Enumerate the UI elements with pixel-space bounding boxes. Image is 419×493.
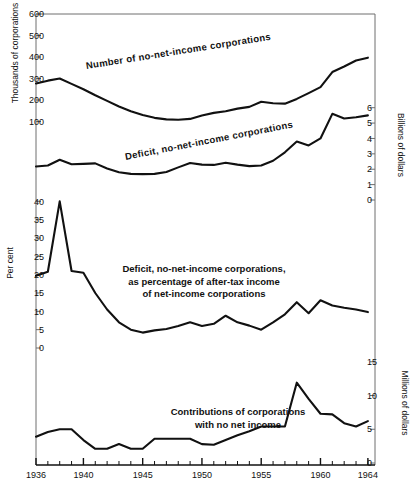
y-tick-label-thousands: 400: [29, 52, 44, 62]
series-label-percent-line2: as percentage of after-tax income: [96, 276, 312, 289]
y-tick-label-billions: 3: [367, 149, 372, 159]
axis-title-millions-of-dollars: Millions of dollars: [400, 355, 410, 451]
y-tick-label-billions: 5: [367, 118, 372, 128]
y-tick-label-percent: 30: [34, 233, 44, 243]
y-tick-label-percent: 25: [34, 252, 44, 262]
y-tick-label-millions: 0: [367, 458, 372, 468]
x-tick-label: 1936: [26, 470, 46, 480]
y-tick-label-billions: 2: [367, 164, 372, 174]
y-tick-label-percent: 10: [34, 307, 44, 317]
y-tick-label-percent: 40: [34, 197, 44, 207]
y-tick-label-billions: 4: [367, 134, 372, 144]
y-tick-label-billions: 6: [367, 103, 372, 113]
series-label-percent-line3: of net-income corporations: [96, 288, 312, 301]
y-tick-label-billions: 1: [367, 180, 372, 190]
series-label-percent-line1: Deficit, no-net-income corporations,: [96, 263, 312, 276]
x-tick-label: 1955: [251, 470, 271, 480]
x-tick-label: 1945: [133, 470, 153, 480]
x-tick-label: 1960: [310, 470, 330, 480]
y-tick-label-percent: 35: [34, 215, 44, 225]
x-tick-label: 1964: [358, 470, 378, 480]
axis-title-billions-of-dollars: Billions of dollars: [396, 99, 406, 191]
x-tick-label: 1940: [73, 470, 93, 480]
y-tick-label-thousands: 200: [29, 95, 44, 105]
series-label-contributions-line1: Contributions of corporations: [138, 405, 338, 418]
series-label-contributions-line2: with no net income: [138, 418, 338, 431]
axis-title-thousands-of-corporations: Thousands of corporations: [10, 0, 20, 113]
axis-title-per-cent: Per cent: [5, 237, 15, 289]
y-tick-label-thousands: 600: [29, 9, 44, 19]
chart-figure: 1936194019451950195519601964600500400300…: [0, 0, 419, 493]
y-tick-label-billions: 0: [367, 195, 372, 205]
y-tick-label-millions: 10: [367, 391, 377, 401]
y-tick-label-thousands: 500: [29, 31, 44, 41]
y-tick-label-percent: 5: [39, 325, 44, 335]
y-tick-label-percent: 0: [39, 343, 44, 353]
series-label-contributions: Contributions of corporations with no ne…: [138, 405, 338, 431]
y-tick-label-millions: 15: [367, 357, 377, 367]
y-tick-label-millions: 5: [367, 424, 372, 434]
series-label-percent: Deficit, no-net-income corporations, as …: [96, 263, 312, 301]
y-tick-label-percent: 15: [34, 288, 44, 298]
y-tick-label-thousands: 100: [29, 117, 44, 127]
x-tick-label: 1950: [192, 470, 212, 480]
